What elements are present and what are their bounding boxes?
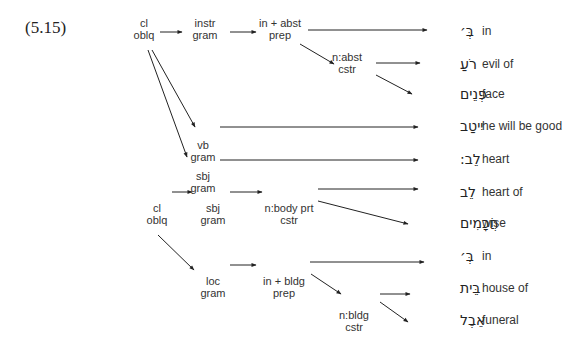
node-inbldg: in + bldgprep [263,275,305,299]
hebrew-word: רֹעַ [460,56,477,72]
hebrew-word: בְּ׳ [460,248,474,265]
arrow-edge [300,44,334,64]
hebrew-word: יִיטַב [460,118,483,134]
hebrew-word: בֵּית [460,280,480,296]
hebrew-word: לֵב [460,184,476,200]
node-cl2: cloblq [147,202,168,226]
gloss-text: heart [482,152,510,166]
gloss-text: funeral [482,313,519,327]
arrow-edge [152,50,195,127]
gloss-text: house of [482,281,529,295]
arrow-edge [158,235,194,270]
hebrew-word: לֵב: [460,151,481,167]
gloss-text: wise [481,216,506,230]
arrow-edge [380,302,408,322]
gloss-text: in [482,249,491,263]
gloss-text: evil of [482,57,514,71]
node-loc: locgram [200,275,225,299]
nodes: cloblqinstrgramin + abstprepn:abstcstrvb… [134,17,369,333]
gloss-text: in [482,24,491,38]
node-instr: instrgram [192,17,217,41]
arrow-edge [311,274,341,294]
node-sbj2: sbjgram [200,202,225,226]
node-cl1: cloblq [134,17,155,41]
gloss-text: he will be good [482,119,562,133]
hebrew-word: בְּ׳ [460,23,474,40]
arrow-edge [318,201,408,224]
leaves: בְּ׳inרֹעַevil ofפְּנֵיםfaceיִיטַבhe wil… [460,23,562,329]
tree-diagram: cloblqinstrgramin + abstprepn:abstcstrvb… [0,0,565,353]
node-sbj1: sbjgram [190,170,215,194]
node-inabst: in + abstprep [259,17,301,41]
node-nabst: n:abstcstr [332,51,362,75]
arrow-edge [376,75,412,94]
gloss-text: face [482,87,505,101]
node-nbldg: n:bldgcstr [339,309,369,333]
arrow-edge [148,50,187,157]
node-vb: vbgram [190,139,215,163]
gloss-text: heart of [482,185,523,199]
node-nbody: n:body prtcstr [265,202,314,226]
